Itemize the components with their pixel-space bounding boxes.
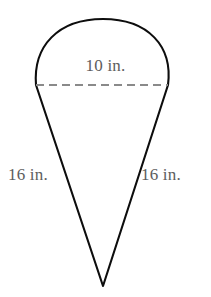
slant-right-label: 16 in.: [141, 166, 181, 183]
diameter-label: 10 in.: [0, 57, 211, 74]
slant-left-label: 16 in.: [8, 166, 48, 183]
geometry-diagram: [0, 0, 211, 297]
figure-canvas: 10 in. 16 in. 16 in.: [0, 0, 211, 297]
